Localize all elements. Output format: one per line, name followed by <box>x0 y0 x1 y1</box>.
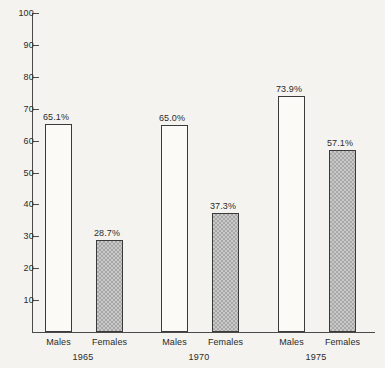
y-tick-label: 30 <box>4 232 34 241</box>
bar-1970-males <box>161 125 188 332</box>
y-tick-label: 100 <box>4 9 34 18</box>
y-tick-label: 90 <box>4 41 34 50</box>
category-label-females: Females <box>196 337 256 348</box>
group-label-1965: 1965 <box>53 352 113 363</box>
group-label-1975: 1975 <box>286 352 346 363</box>
y-tick-label: 60 <box>4 137 34 146</box>
bar-1970-females <box>212 213 239 332</box>
bar-1975-females <box>329 150 356 332</box>
bar-chart: 100908070605040302010 65.1%28.7%65.0%37.… <box>0 0 385 368</box>
x-axis-line <box>32 332 375 333</box>
bar-1965-females <box>96 240 123 332</box>
bar-value-label: 73.9% <box>276 84 302 94</box>
group-label-1970: 1970 <box>169 352 229 363</box>
y-tick-label: 80 <box>4 73 34 82</box>
bar-1975-males <box>278 96 305 332</box>
y-tick-label: 10 <box>4 296 34 305</box>
category-label-females: Females <box>313 337 373 348</box>
bar-value-label: 37.3% <box>210 201 236 211</box>
bar-1965-males <box>45 124 72 332</box>
bar-value-label: 28.7% <box>94 228 120 238</box>
plot-area: 100908070605040302010 65.1%28.7%65.0%37.… <box>0 0 385 368</box>
y-tick-label: 40 <box>4 200 34 209</box>
bar-value-label: 65.1% <box>43 112 69 122</box>
category-label-females: Females <box>80 337 140 348</box>
bar-value-label: 57.1% <box>327 138 353 148</box>
bar-value-label: 65.0% <box>159 113 185 123</box>
y-tick-label: 50 <box>4 169 34 178</box>
y-tick-label: 70 <box>4 105 34 114</box>
y-tick-label: 20 <box>4 264 34 273</box>
